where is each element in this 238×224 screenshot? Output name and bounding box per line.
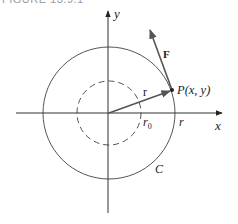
diagram-canvas: y x F P(x, y) r r0 r C xyxy=(0,0,238,224)
r0-label: r0 xyxy=(143,115,152,131)
point-p-label: P(x, y) xyxy=(176,83,210,97)
force-label: F xyxy=(163,48,170,60)
force-vector-f xyxy=(150,30,172,90)
y-axis-label: y xyxy=(112,6,120,21)
r0-label-subscript: 0 xyxy=(148,122,152,131)
r-axis-label: r xyxy=(179,115,184,129)
x-axis-label: x xyxy=(214,118,221,133)
position-vector-r xyxy=(109,91,170,113)
point-p-dot xyxy=(170,88,174,92)
curve-c-label: C xyxy=(155,162,164,176)
radius-vector-label: r xyxy=(143,85,147,99)
